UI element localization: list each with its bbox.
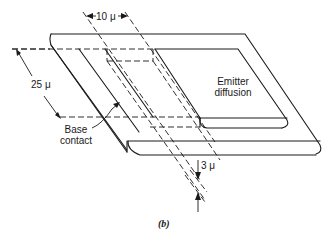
base-contact-label: Base contact bbox=[56, 124, 96, 146]
base-slab-front-bottom-edge bbox=[128, 141, 316, 155]
dim-10-arrowhead-left bbox=[86, 13, 93, 19]
emitter-label-line2: diffusion bbox=[200, 87, 266, 98]
diagram-drawing bbox=[0, 0, 332, 236]
dimension-label-depth: 3 μ bbox=[201, 160, 215, 171]
emitter-left-edge bbox=[155, 49, 200, 118]
dim-10-arrowhead-right bbox=[121, 13, 128, 19]
dashed-diag-6 bbox=[185, 175, 205, 202]
dim-3-arrowhead-down bbox=[195, 172, 201, 180]
emitter-label-line1: Emitter bbox=[200, 76, 266, 87]
base-contact-right-edge bbox=[105, 49, 153, 117]
dim-3-arrowhead-up bbox=[195, 192, 201, 200]
dashed-diag-3 bbox=[107, 61, 205, 200]
base-label-line1: Base bbox=[56, 124, 96, 135]
base-label-line2: contact bbox=[56, 135, 96, 146]
transistor-structure-diagram: 10 μ 25 μ 3 μ Emitter diffusion Base con… bbox=[0, 0, 332, 236]
dimension-label-width: 10 μ bbox=[96, 11, 116, 22]
dim-25-arrowhead-top bbox=[16, 49, 21, 56]
dim-25-line-upper bbox=[18, 52, 32, 76]
dimension-label-length: 25 μ bbox=[31, 79, 51, 90]
emitter-bottom-edge bbox=[200, 118, 282, 128]
figure-caption: (b) bbox=[158, 218, 170, 229]
emitter-diffusion-label: Emitter diffusion bbox=[200, 76, 266, 98]
